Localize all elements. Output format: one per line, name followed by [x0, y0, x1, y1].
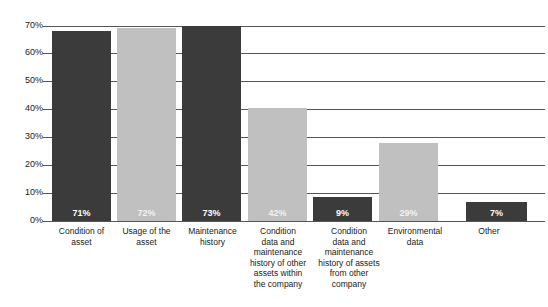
x-axis-baseline [52, 221, 545, 222]
y-axis-tick-30: 30% [0, 132, 43, 141]
category-label-usage-of-the-asset: Usage of the asset [111, 226, 182, 247]
y-axis-tick-70: 70% [0, 21, 43, 30]
plot-area: 71% 72% 73% 42% 9% 29% 7% [52, 26, 545, 221]
y-axis-tick-label: 20% [3, 160, 43, 169]
bar-value-label: 73% [182, 208, 241, 218]
y-axis-tick-60: 60% [0, 48, 43, 57]
y-tick-mark-10 [43, 193, 52, 194]
bar-chart: 70% 60% 50% 40% 30% 20% 10% 0% 71% [0, 0, 548, 307]
category-label-other: Other [452, 226, 526, 237]
y-axis-tick-label: 0% [3, 216, 43, 225]
y-axis-tick-label: 70% [3, 21, 43, 30]
y-axis-tick-label: 50% [3, 76, 43, 85]
bar-value-label: 71% [52, 208, 111, 218]
bar-value-label: 72% [117, 208, 176, 218]
y-axis-tick-0: 0% [0, 216, 43, 225]
bar-usage-of-the-asset[interactable]: 72% [117, 28, 176, 221]
y-axis-tick-label: 40% [3, 104, 43, 113]
gridline-70 [52, 26, 545, 27]
y-tick-mark-30 [43, 137, 52, 138]
bar-condition-of-asset[interactable]: 71% [52, 31, 111, 221]
bar-value-label: 7% [466, 208, 527, 218]
bar-condition-data-other-assets-within-company[interactable]: 42% [248, 108, 307, 221]
y-axis-tick-label: 10% [3, 188, 43, 197]
category-label-condition-of-asset: Condition of asset [46, 226, 117, 247]
bar-other[interactable]: 7% [466, 202, 527, 221]
y-axis-tick-label: 60% [3, 48, 43, 57]
y-tick-mark-70 [43, 26, 52, 27]
y-axis-tick-40: 40% [0, 104, 43, 113]
y-axis-tick-20: 20% [0, 160, 43, 169]
y-tick-mark-0 [43, 221, 52, 222]
y-tick-mark-60 [43, 53, 52, 54]
y-tick-mark-40 [43, 109, 52, 110]
y-axis-tick-10: 10% [0, 188, 43, 197]
category-label-condition-data-other-assets-within-company: Condition data and maintenance history o… [241, 226, 315, 289]
y-tick-mark-50 [43, 81, 52, 82]
bar-value-label: 9% [313, 208, 372, 218]
bar-value-label: 42% [248, 208, 307, 218]
y-axis-tick-50: 50% [0, 76, 43, 85]
category-label-environmental-data: Environmental data [376, 226, 454, 247]
category-label-maintenance-history: Maintenance history [177, 226, 248, 247]
bar-maintenance-history[interactable]: 73% [182, 26, 241, 221]
bar-condition-data-assets-from-other-company[interactable]: 9% [313, 197, 372, 221]
y-tick-mark-20 [43, 165, 52, 166]
y-axis-tick-label: 30% [3, 132, 43, 141]
bar-value-label: 29% [379, 208, 438, 218]
bar-environmental-data[interactable]: 29% [379, 143, 438, 221]
